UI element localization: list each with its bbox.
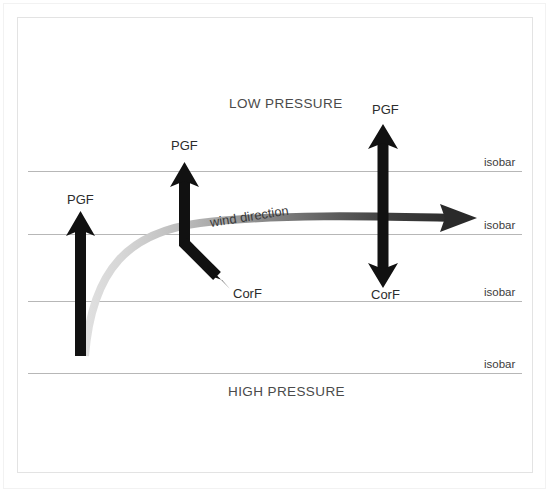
low-pressure-label: LOW PRESSURE bbox=[229, 97, 343, 111]
right-pgf-label: PGF bbox=[372, 103, 399, 116]
wind-arrowhead bbox=[440, 204, 477, 232]
middle-corf-label: CorF bbox=[233, 287, 262, 300]
high-pressure-label: HIGH PRESSURE bbox=[228, 385, 345, 399]
middle-pgf-shaft bbox=[179, 180, 190, 246]
isobar-label-4: isobar bbox=[484, 359, 515, 371]
middle-pgf-arrow bbox=[170, 162, 199, 246]
isobar-lines bbox=[28, 172, 522, 374]
isobar-label-1: isobar bbox=[484, 157, 515, 169]
middle-corf-arrow bbox=[183, 242, 230, 289]
left-pgf-shaft bbox=[75, 229, 86, 356]
left-pgf-label: PGF bbox=[67, 193, 94, 206]
isobar-label-2: isobar bbox=[484, 220, 515, 232]
wind-direction-arrow bbox=[85, 204, 477, 356]
figure-canvas: LOW PRESSURE HIGH PRESSURE PGF PGF CorF … bbox=[0, 0, 550, 493]
right-arrow-shaft bbox=[378, 141, 389, 271]
right-corf-label: CorF bbox=[371, 288, 400, 301]
middle-pgf-label: PGF bbox=[171, 139, 198, 152]
right-double-arrow bbox=[368, 124, 398, 288]
diagram-svg bbox=[0, 0, 550, 493]
isobar-label-3: isobar bbox=[484, 287, 515, 299]
